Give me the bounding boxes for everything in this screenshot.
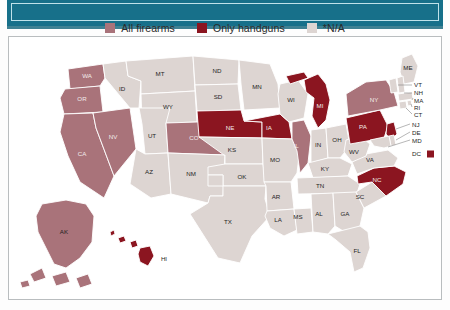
svg-text:OH: OH xyxy=(332,136,341,143)
state-tn[interactable] xyxy=(297,176,360,194)
svg-text:WA: WA xyxy=(82,72,93,79)
svg-text:IA: IA xyxy=(266,124,273,131)
page-root: All firearms Only handguns *N/A xyxy=(0,0,450,310)
state-group-hawaii xyxy=(110,230,154,266)
svg-text:FL: FL xyxy=(353,247,361,254)
svg-text:WV: WV xyxy=(349,148,360,155)
svg-text:NJ: NJ xyxy=(412,121,420,128)
svg-text:ID: ID xyxy=(119,85,126,92)
map-svg: WA OR CA NV ID MT WY UT CO AZ NM ND SD N… xyxy=(8,36,442,300)
svg-text:ME: ME xyxy=(403,64,412,71)
svg-text:NY: NY xyxy=(370,96,379,103)
svg-text:RI: RI xyxy=(414,104,420,111)
svg-text:OR: OR xyxy=(77,95,87,102)
svg-text:AK: AK xyxy=(60,228,69,235)
svg-text:UT: UT xyxy=(148,132,156,139)
svg-text:DE: DE xyxy=(412,129,421,136)
state-group-alaska xyxy=(20,200,94,288)
state-shapes-group xyxy=(60,54,418,272)
state-hi[interactable] xyxy=(110,230,154,266)
svg-text:LA: LA xyxy=(274,216,282,223)
header-band xyxy=(7,0,443,26)
svg-text:MA: MA xyxy=(414,97,424,104)
svg-text:SD: SD xyxy=(214,93,223,100)
state-fl[interactable] xyxy=(328,226,370,272)
svg-text:MO: MO xyxy=(270,156,280,163)
header-band-inner-border xyxy=(11,3,439,21)
svg-text:VT: VT xyxy=(414,81,422,88)
svg-text:TN: TN xyxy=(316,182,324,189)
svg-text:CA: CA xyxy=(78,150,87,157)
svg-text:NV: NV xyxy=(109,133,118,140)
svg-text:IN: IN xyxy=(315,141,321,148)
svg-text:NM: NM xyxy=(186,170,196,177)
state-ak[interactable] xyxy=(20,200,94,288)
dc-color-swatch xyxy=(427,151,434,158)
us-choropleth-map: WA OR CA NV ID MT WY UT CO AZ NM ND SD N… xyxy=(8,36,442,300)
svg-text:MS: MS xyxy=(293,213,302,220)
callout-labels-group: VT NH MA RI CT NJ DE MD DC xyxy=(412,81,424,157)
state-ct[interactable] xyxy=(399,101,407,109)
svg-text:NE: NE xyxy=(226,124,235,131)
svg-text:NH: NH xyxy=(414,89,423,96)
svg-text:IL: IL xyxy=(293,142,299,149)
svg-text:PA: PA xyxy=(359,123,368,130)
svg-text:SC: SC xyxy=(356,193,365,200)
state-ky[interactable] xyxy=(308,158,352,178)
svg-text:VA: VA xyxy=(366,156,375,163)
svg-text:CO: CO xyxy=(189,134,198,141)
header-band-shadow xyxy=(7,26,443,29)
svg-text:HI: HI xyxy=(161,255,167,262)
svg-text:KY: KY xyxy=(321,165,329,172)
svg-text:KS: KS xyxy=(228,146,236,153)
svg-text:ND: ND xyxy=(213,67,222,74)
svg-text:DC: DC xyxy=(412,150,421,157)
svg-text:AR: AR xyxy=(272,193,281,200)
svg-text:WY: WY xyxy=(163,103,173,110)
svg-text:WI: WI xyxy=(287,96,295,103)
svg-text:AL: AL xyxy=(315,210,323,217)
svg-text:MT: MT xyxy=(156,70,165,77)
svg-text:CT: CT xyxy=(414,111,422,118)
svg-text:GA: GA xyxy=(341,210,351,217)
svg-text:MN: MN xyxy=(252,83,262,90)
svg-text:TX: TX xyxy=(224,218,232,225)
svg-text:MD: MD xyxy=(412,137,422,144)
svg-text:AZ: AZ xyxy=(145,168,153,175)
svg-text:OK: OK xyxy=(238,173,248,180)
state-vt[interactable] xyxy=(389,78,398,93)
svg-text:NC: NC xyxy=(373,176,382,183)
svg-text:MI: MI xyxy=(317,102,324,109)
